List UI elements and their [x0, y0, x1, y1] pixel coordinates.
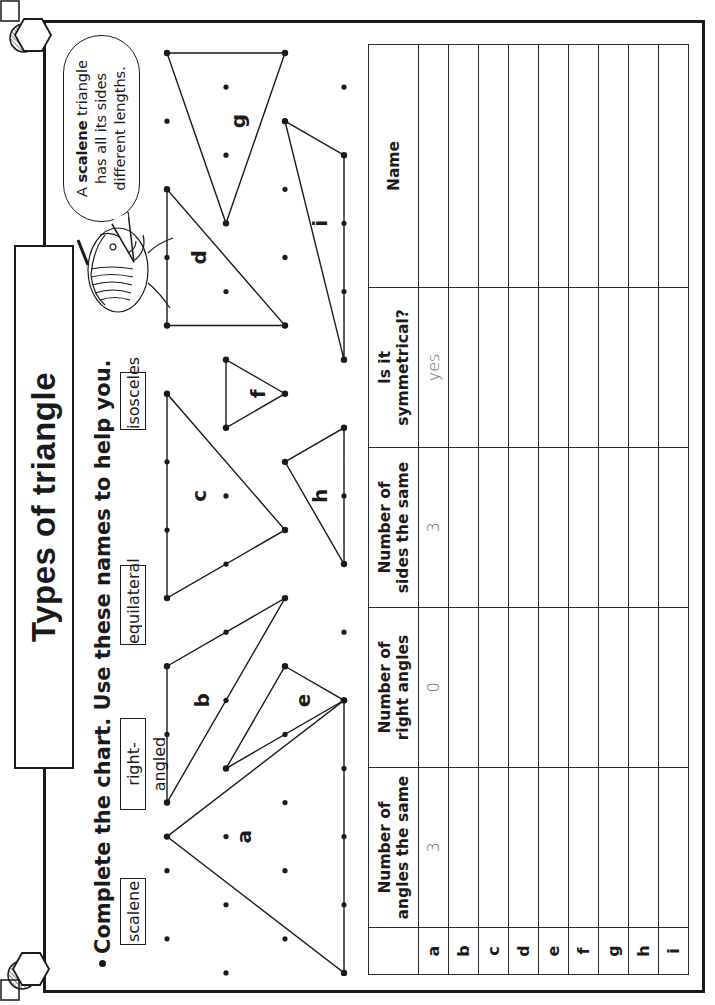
cell-name[interactable]: [509, 45, 539, 288]
cell-symmetrical[interactable]: [599, 288, 629, 448]
grid-dot: [223, 834, 228, 839]
grid-dot: [223, 84, 228, 89]
cell-name[interactable]: [659, 45, 689, 288]
cell-angles-same[interactable]: [449, 768, 479, 928]
cell-symmetrical[interactable]: [629, 288, 659, 448]
triangle-chart-table: Number ofangles the same Number ofright …: [368, 44, 689, 975]
table-header-row: Number ofangles the same Number ofright …: [369, 45, 419, 975]
row-label: h: [629, 928, 659, 975]
grid-dot: [164, 119, 169, 124]
grid-dot: [282, 255, 287, 260]
cell-symmetrical[interactable]: [449, 288, 479, 448]
cell-angles-same[interactable]: [629, 768, 659, 928]
cell-name[interactable]: [599, 45, 629, 288]
cell-right-angles[interactable]: [569, 608, 599, 768]
table-row: a303yes: [419, 45, 449, 975]
cell-right-angles[interactable]: [449, 608, 479, 768]
header-symmetrical: Is itsymmetrical?: [369, 288, 419, 448]
grid-dot: [223, 289, 228, 294]
cell-right-angles[interactable]: [659, 608, 689, 768]
cell-right-angles[interactable]: [539, 608, 569, 768]
table-row: b: [449, 45, 479, 975]
row-label: e: [539, 928, 569, 975]
triangle-label-d: d: [187, 250, 211, 264]
cell-sides-same[interactable]: [629, 448, 659, 608]
triangle-i: [285, 121, 344, 359]
grid-dot: [223, 493, 228, 498]
cell-sides-same[interactable]: [509, 448, 539, 608]
cell-angles-same[interactable]: [599, 768, 629, 928]
header-blank: [369, 928, 419, 975]
grid-dot: [223, 970, 228, 975]
cell-sides-same[interactable]: [569, 448, 599, 608]
row-label: f: [569, 928, 599, 975]
cell-right-angles[interactable]: [599, 608, 629, 768]
grid-dot: [282, 868, 287, 873]
table-row: f: [569, 45, 599, 975]
cell-right-angles[interactable]: 0: [419, 608, 449, 768]
row-label: i: [659, 928, 689, 975]
triangle-label-h: h: [308, 489, 332, 503]
triangle-label-f: f: [246, 389, 270, 398]
cell-name[interactable]: [419, 45, 449, 288]
row-label: b: [449, 928, 479, 975]
cell-sides-same[interactable]: 3: [419, 448, 449, 608]
cell-sides-same[interactable]: [449, 448, 479, 608]
cell-symmetrical[interactable]: yes: [419, 288, 449, 448]
worksheet-page: Types of triangle Complete the chart. Us…: [0, 0, 715, 1005]
cell-symmetrical[interactable]: [539, 288, 569, 448]
triangle-g: [167, 53, 285, 223]
triangle-label-b: b: [190, 693, 214, 707]
table-row: i: [659, 45, 689, 975]
table-row: h: [629, 45, 659, 975]
grid-dot: [341, 630, 346, 635]
row-label: a: [419, 928, 449, 975]
grid-dot: [282, 800, 287, 805]
cell-name[interactable]: [569, 45, 599, 288]
cell-symmetrical[interactable]: [479, 288, 509, 448]
table-row: g: [599, 45, 629, 975]
cell-angles-same[interactable]: [659, 768, 689, 928]
cell-name[interactable]: [479, 45, 509, 288]
cell-angles-same[interactable]: [569, 768, 599, 928]
cell-symmetrical[interactable]: [659, 288, 689, 448]
cell-sides-same[interactable]: [539, 448, 569, 608]
cell-sides-same[interactable]: [659, 448, 689, 608]
header-sides-same: Number ofsides the same: [369, 448, 419, 608]
header-name: Name: [369, 45, 419, 288]
triangle-b: [167, 598, 285, 802]
triangle-e: [226, 666, 344, 768]
grid-dot: [282, 187, 287, 192]
grid-dot: [223, 153, 228, 158]
row-label: c: [479, 928, 509, 975]
row-label: g: [599, 928, 629, 975]
row-label: d: [509, 928, 539, 975]
header-angles-same: Number ofangles the same: [369, 768, 419, 928]
cell-angles-same[interactable]: [539, 768, 569, 928]
table-row: d: [509, 45, 539, 975]
triangle-label-i: i: [308, 220, 332, 227]
cell-sides-same[interactable]: [479, 448, 509, 608]
cell-angles-same[interactable]: 3: [419, 768, 449, 928]
triangle-label-g: g: [226, 114, 250, 128]
table-row: c: [479, 45, 509, 975]
cell-angles-same[interactable]: [509, 768, 539, 928]
cell-right-angles[interactable]: [479, 608, 509, 768]
table-row: e: [539, 45, 569, 975]
cell-angles-same[interactable]: [479, 768, 509, 928]
grid-dot: [164, 868, 169, 873]
cell-sides-same[interactable]: [599, 448, 629, 608]
cell-name[interactable]: [539, 45, 569, 288]
cell-right-angles[interactable]: [509, 608, 539, 768]
grid-dot: [223, 902, 228, 907]
triangle-label-c: c: [187, 490, 211, 502]
cell-symmetrical[interactable]: [509, 288, 539, 448]
cell-right-angles[interactable]: [629, 608, 659, 768]
grid-dot: [341, 84, 346, 89]
cell-symmetrical[interactable]: [569, 288, 599, 448]
cell-name[interactable]: [629, 45, 659, 288]
grid-dot: [164, 936, 169, 941]
triangle-label-e: e: [291, 694, 315, 708]
triangle-label-a: a: [232, 830, 256, 844]
cell-name[interactable]: [449, 45, 479, 288]
